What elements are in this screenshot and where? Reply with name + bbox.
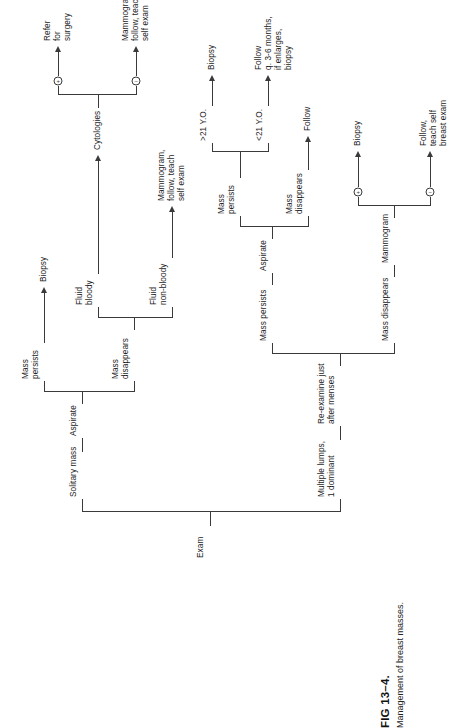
figure-number: FIG 13–4. [379, 675, 391, 728]
edge-lt21-arm [268, 143, 269, 152]
edge-disappears-stem [134, 318, 135, 330]
edge-age-split [212, 151, 268, 152]
node-mass-persists-top: Mass persists [21, 350, 41, 379]
edge-mammopos-biopsy [358, 157, 359, 187]
node-biopsy-gt21: Biopsy [207, 45, 217, 70]
edge-aspirate-split [44, 391, 134, 392]
minus-glyph: − [134, 78, 138, 84]
edge-persistsmid-aspirate [272, 273, 273, 285]
edge-persists-biopsy [44, 293, 45, 343]
arrowhead-biopsy-gt21 [209, 75, 215, 81]
edge-trunk-to-solitary [82, 499, 83, 512]
edge-bloody-cytologies [98, 161, 99, 274]
node-mass-disappears-top: Mass disappears [111, 338, 131, 379]
edge-cytologies-split [58, 94, 136, 95]
edge-mammoneg-follow [430, 157, 431, 187]
edge-mammogram-stem [394, 206, 395, 218]
node-follow-q36: Follow q. 3-6 months, if enlarges, biops… [254, 16, 294, 70]
edge-mammo-negative-arm [430, 197, 431, 206]
node-fluid-bloody: Fluid bloody [75, 280, 95, 305]
arrowhead-biopsy-mammopos [355, 151, 361, 157]
edge-nonbloody-mammo [172, 212, 173, 258]
edge-aspirate-stem [82, 392, 83, 404]
node-aspirate-mid: Aspirate [259, 240, 269, 271]
edge-reexamine-split [272, 353, 394, 354]
arrowhead-refer-surgery [55, 46, 61, 52]
edge-reexam-persists-arm [272, 343, 273, 354]
edge-aspiratemid-persists-arm [240, 216, 241, 227]
minus-sign-icon-mammogram: − [425, 188, 434, 197]
edge-cyto-negative-arm [136, 86, 137, 95]
edge-root-trunk [82, 511, 340, 512]
edge-gt21-arm [212, 143, 213, 152]
edge-aspiratemid-stem [272, 227, 273, 239]
edge-cyto-positive-arm [58, 86, 59, 95]
node-biopsy-top: Biopsy [39, 257, 49, 282]
node-refer-for-surgery: Refer for surgery [43, 10, 73, 41]
plus-sign-icon-mammogram: + [353, 188, 362, 197]
node-exam: Exam [196, 537, 206, 558]
edge-disappearsmid-follow [308, 142, 309, 170]
node-lt21: <21 Y.O. [255, 109, 265, 141]
edge-aspiratemid-split [240, 226, 308, 227]
minus-glyph: − [428, 189, 432, 195]
figure-caption-text: Management of breast masses. [395, 428, 405, 728]
edge-mammogram-split [358, 205, 430, 206]
edge-fluid-nonbloody-arm [172, 307, 173, 318]
edge-solitary-aspirate [82, 438, 83, 452]
node-mammogram-follow-cytoneg: Mammogram, follow, teach self exam [121, 0, 151, 41]
node-mass-persists-low: Mass persists [217, 185, 237, 214]
node-mass-persists-mid: Mass persists [259, 290, 269, 341]
plus-sign-icon-cytology: + [53, 77, 62, 86]
minus-sign-icon-cytology: − [131, 77, 140, 86]
node-mass-disappears-mid: Mass disappears [285, 173, 305, 214]
edge-aspirate-disappears [134, 381, 135, 392]
edge-trunk-to-multiple [340, 499, 341, 512]
node-biopsy-mammo-positive: Biopsy [353, 121, 363, 146]
arrowhead-mammo-nonbloody [169, 206, 175, 212]
arrowhead-biopsy-top [41, 287, 47, 293]
node-follow: Follow [303, 107, 313, 131]
edge-gt21-biopsy [212, 81, 213, 106]
edge-fluid-split [98, 317, 172, 318]
edge-exam-stem [210, 512, 211, 526]
edge-aspiratemid-disappears-arm [308, 216, 309, 227]
edge-disappearslow-mammogram [394, 265, 395, 277]
edge-cytologies-stem [98, 95, 99, 108]
edge-mammo-positive-arm [358, 197, 359, 206]
arrowhead-cytologies [95, 155, 101, 161]
edge-lt21-follow [268, 81, 269, 106]
node-fluid-nonbloody: Fluid non-bloody [149, 263, 169, 305]
node-cytologies: Cytologies [93, 111, 103, 150]
arrowhead-follow-teach [427, 151, 433, 157]
node-aspirate-top: Aspirate [69, 405, 79, 436]
node-follow-teach-breast-exam: Follow, teach self breast exam [419, 100, 449, 146]
node-multiple-lumps: Multiple lumps, 1 dominant [317, 441, 337, 497]
node-mammogram: Mammogram [381, 214, 391, 263]
plus-glyph: + [56, 78, 60, 84]
edge-persistslow-stem [240, 152, 241, 178]
edge-reexam-disappears-arm [394, 343, 395, 354]
decision-tree: Exam Solitary mass Aspirate Mass persist… [20, 10, 400, 570]
edge-reexamine-stem [340, 354, 341, 366]
edge-cytoneg-mammo [136, 52, 137, 76]
node-mass-disappears-low: Mass disappears [381, 278, 391, 341]
arrowhead-follow [305, 136, 311, 142]
node-mammogram-follow-nonbloody: Mammogram, follow, teach self exam [157, 150, 187, 202]
edge-cytopos-refer [58, 52, 59, 76]
plus-glyph: + [356, 189, 360, 195]
node-solitary-mass: Solitary mass [69, 447, 79, 497]
arrowhead-follow-q36 [265, 75, 271, 81]
edge-multiple-reexamine [340, 426, 341, 440]
edge-fluid-bloody-arm [98, 307, 99, 318]
node-gt21: >21 Y.O. [199, 109, 209, 141]
edge-aspirate-persists [44, 381, 45, 392]
node-reexamine: Re-examine just after menses [317, 363, 337, 424]
arrowhead-mammo-cytoneg [133, 46, 139, 52]
